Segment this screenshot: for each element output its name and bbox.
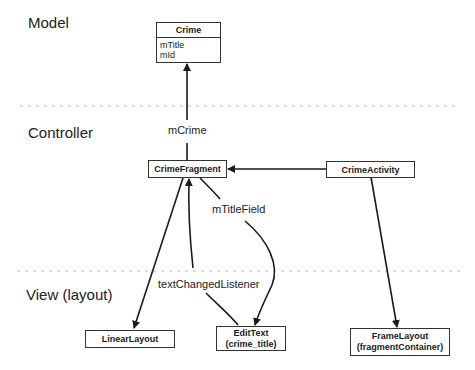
node-linear-layout-title: LinearLayout [86, 334, 174, 345]
node-frame-layout: FrameLayout (fragmentContainer) [350, 328, 450, 356]
node-crime-fragment-title: CrimeFragment [149, 164, 226, 175]
node-crime-field: mTitle [157, 38, 220, 50]
edge-mtitlefield-lower [245, 221, 274, 325]
diagram-edges [0, 0, 475, 370]
node-edit-text-subtitle: (crime_title) [217, 339, 285, 350]
node-edit-text: EditText (crime_title) [216, 326, 286, 351]
node-crime-fragment: CrimeFragment [148, 160, 227, 178]
node-linear-layout: LinearLayout [85, 330, 175, 348]
node-edit-text-title: EditText [217, 328, 285, 339]
node-crime-activity: CrimeActivity [326, 161, 415, 178]
node-crime-field: mId [157, 50, 220, 60]
node-frame-layout-subtitle: (fragmentContainer) [351, 342, 449, 353]
edge-label-mcrime: mCrime [168, 124, 207, 136]
edge-textchanged-upper [189, 179, 193, 268]
edge-activity-framelayout [371, 177, 397, 327]
edge-textchanged-lower [206, 293, 238, 325]
node-crime-title: Crime [157, 23, 220, 38]
edge-mtitlefield-upper [200, 178, 220, 199]
node-crime-activity-title: CrimeActivity [327, 165, 414, 176]
edge-fragment-linearlayout [134, 178, 183, 328]
edge-label-mtitlefield: mTitleField [212, 203, 265, 215]
edge-label-textchangedlistener: textChangedListener [158, 278, 260, 290]
node-frame-layout-title: FrameLayout [351, 331, 449, 342]
node-crime: Crime mTitle mId [156, 22, 221, 63]
